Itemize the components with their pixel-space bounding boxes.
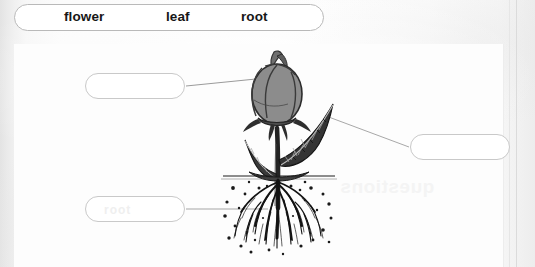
word-bank-item-flower[interactable]: flower [64,9,104,24]
worksheet-page: questions flower leaf root [0,0,535,267]
answer-box-root[interactable] [85,196,185,222]
sepal-center-right [281,124,287,141]
answer-box-flower-value [86,74,184,98]
answer-box-leaf[interactable] [410,134,510,160]
scan-edge-line-inner [509,0,510,267]
scan-edge-line-outer [516,0,517,267]
answer-box-leaf-value [411,135,509,159]
answer-box-root-value [86,197,184,221]
answer-box-flower[interactable] [85,73,185,99]
sepal-left [243,119,261,132]
plant-illustration [205,48,370,263]
root-system-group [234,180,323,248]
sepal-center [269,124,275,141]
leaf-left-group [245,140,277,179]
word-bank[interactable]: flower leaf root [14,4,324,31]
bud-body [252,64,302,124]
leaf-left-blade [245,140,277,179]
root-lateral-l2 [241,182,278,212]
sepal-right [293,119,311,132]
word-bank-item-leaf[interactable]: leaf [166,9,190,24]
word-bank-item-root[interactable]: root [241,9,268,24]
